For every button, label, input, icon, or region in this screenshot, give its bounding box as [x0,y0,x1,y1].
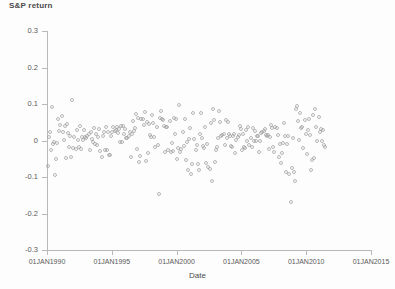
data-point [196,162,200,166]
data-point [223,143,227,147]
data-point [292,170,296,174]
data-point [104,125,108,129]
data-point [296,119,300,123]
data-point [64,156,68,160]
data-point [156,143,160,147]
data-point [279,161,283,165]
data-point [241,132,245,136]
data-point [212,118,216,122]
data-point [306,128,310,132]
data-point [123,127,127,131]
data-point [92,126,96,130]
data-point [295,104,299,108]
data-point [315,139,319,143]
data-point [293,179,297,183]
data-point [157,192,161,196]
data-point [49,148,53,152]
data-point [108,153,112,157]
data-point [311,113,315,117]
data-point [159,109,163,113]
data-point [294,107,298,111]
data-point [301,146,305,150]
data-point [214,148,218,152]
scatter-points [0,0,395,289]
data-point [192,137,196,141]
data-point [317,115,321,119]
data-point [61,130,65,134]
data-point [97,127,101,131]
data-point [150,113,154,117]
data-point [170,141,174,145]
data-point [88,148,92,152]
data-point [289,200,293,204]
data-point [174,117,178,121]
data-point [161,118,165,122]
data-point [82,128,86,132]
data-point [203,125,207,129]
data-point [205,142,209,146]
data-point [181,130,185,134]
data-point [285,142,289,146]
data-point [101,134,105,138]
data-point [239,127,243,131]
data-point [308,133,312,137]
data-point [109,134,113,138]
data-point [218,120,222,124]
data-point [208,167,212,171]
data-point [173,132,177,136]
data-point [199,111,203,115]
chart-canvas: S&P return 0.30.20.10-0.1-0.2-0.3 01JAN1… [0,0,395,289]
data-point [213,160,217,164]
data-point [280,151,284,155]
data-point [190,162,194,166]
data-point [46,164,50,168]
data-point [133,126,137,130]
data-point [62,138,66,142]
data-point [79,147,83,151]
data-point [168,119,172,123]
data-point [210,179,214,183]
data-point [258,139,262,143]
data-point [202,146,206,150]
data-point [147,122,151,126]
data-point [54,157,58,161]
data-point [120,140,124,144]
data-point [312,156,316,160]
data-point [226,120,230,124]
data-point [135,147,139,151]
data-point [138,154,142,158]
data-point [303,118,307,122]
data-point [155,125,159,129]
data-point [146,151,150,155]
data-point [137,160,141,164]
data-point [197,168,201,172]
data-point [60,114,64,118]
data-point [250,145,254,149]
data-point [55,141,59,145]
data-point [177,103,181,107]
data-point [100,155,104,159]
data-point [89,130,93,134]
data-point [186,168,190,172]
data-point [313,107,317,111]
data-point [307,117,311,121]
data-point [257,150,261,154]
data-point [272,150,276,154]
data-point [183,117,187,121]
data-point [267,147,271,151]
data-point [200,136,204,140]
data-point [253,129,257,133]
data-point [217,109,221,113]
data-point [96,135,100,139]
data-point [305,152,309,156]
data-point [129,155,133,159]
data-point [134,112,138,116]
data-point [58,123,62,127]
data-point [78,124,82,128]
data-point [246,125,250,129]
data-point [263,127,267,131]
data-point [233,151,237,155]
data-point [215,145,219,149]
data-point [116,131,120,135]
data-point [276,133,280,137]
